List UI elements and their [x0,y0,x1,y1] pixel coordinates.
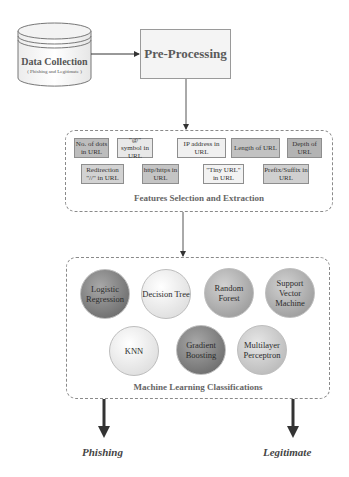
feature-length-of-url: Length of URL [231,138,280,158]
data-collection-subtitle: ( Phishing and Legitimate ) [18,69,91,74]
feature-redirection: Redirection "//" in URL [81,164,124,184]
classifier-random-forest: Random Forest [204,268,254,318]
classifier-decision-tree: Decision Tree [141,269,191,319]
classifier-multilayer-perceptron: Multilayer Perceptron [237,325,287,375]
database-cylinder-icon [18,23,91,86]
classifier-gradient-boosting: Gradient Boosting [176,325,226,375]
classifier-knn: KNN [109,326,159,376]
pre-processing-box: Pre-Processing [140,29,231,79]
feature-at-symbol: "@" symbol in URL [117,138,153,158]
feature-ip-address: IP address in URL [177,138,226,158]
feature-depth-of-url: Depth of URL [287,138,322,158]
classifier-logistic-regression: Logistic Regression [80,269,130,319]
feature-prefix-suffix: Prefix/Suffix in URL [263,164,309,184]
feature-dots-in-url: No. of dots in URL [74,138,109,158]
outcome-phishing: Phishing [82,446,123,458]
feature-tiny-url: "Tiny URL" in URL [203,164,244,184]
data-collection-title: Data Collection [18,56,91,67]
feature-http-https: http/https in URL [142,164,179,184]
features-caption: Features Selection and Extraction [65,193,333,203]
classifier-svm: Support Vector Machine [265,268,315,318]
outcome-legitimate: Legitimate [263,446,311,458]
ml-caption: Machine Learning Classifications [66,382,330,392]
